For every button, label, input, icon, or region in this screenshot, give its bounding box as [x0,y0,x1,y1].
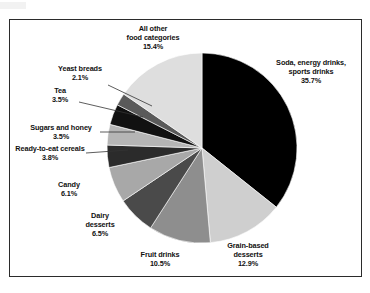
slice-label-grain-based-desserts: Grain-based desserts 12.9% [217,241,279,269]
slice-label-soda-energy-sports-drinks: Soda, energy drinks, sports drinks 35.7% [259,58,363,86]
label-line-2: food categories [105,33,201,42]
label-value: 6.5% [75,229,125,238]
slice-label-all-other-food-categories: All other food categories 15.4% [105,24,201,52]
label-line-1: Sugars and honey [23,123,99,132]
label-value: 3.5% [42,95,78,104]
label-line-1: Ready-to-eat cereals [14,144,86,153]
label-line-2: sports drinks [259,67,363,76]
label-value: 35.7% [259,76,363,85]
label-value: 15.4% [105,42,201,51]
slice-label-candy: Candy 6.1% [46,180,92,198]
label-line-1: Dairy [75,211,125,220]
slice-label-tea: Tea 3.5% [42,86,78,104]
label-value: 2.1% [51,73,109,82]
label-line-1: Yeast breads [51,64,109,73]
label-line-1: Grain-based [217,241,279,250]
slice-label-sugars-and-honey: Sugars and honey 3.5% [23,123,99,141]
label-value: 6.1% [46,189,92,198]
slice-label-fruit-drinks: Fruit drinks 10.5% [132,250,188,268]
label-line-1: Tea [42,86,78,95]
slice-label-ready-to-eat-cereals: Ready-to-eat cereals 3.8% [14,144,86,162]
slice-label-yeast-breads: Yeast breads 2.1% [51,64,109,82]
label-line-1: Fruit drinks [132,250,188,259]
slice-label-dairy-desserts: Dairy desserts 6.5% [75,211,125,239]
label-line-1: All other [105,24,201,33]
label-value: 3.5% [23,132,99,141]
label-value: 3.8% [14,153,86,162]
label-line-2: desserts [217,250,279,259]
label-line-1: Soda, energy drinks, [259,58,363,67]
label-line-2: desserts [75,220,125,229]
label-value: 10.5% [132,259,188,268]
label-line-1: Candy [46,180,92,189]
label-value: 12.9% [217,259,279,268]
